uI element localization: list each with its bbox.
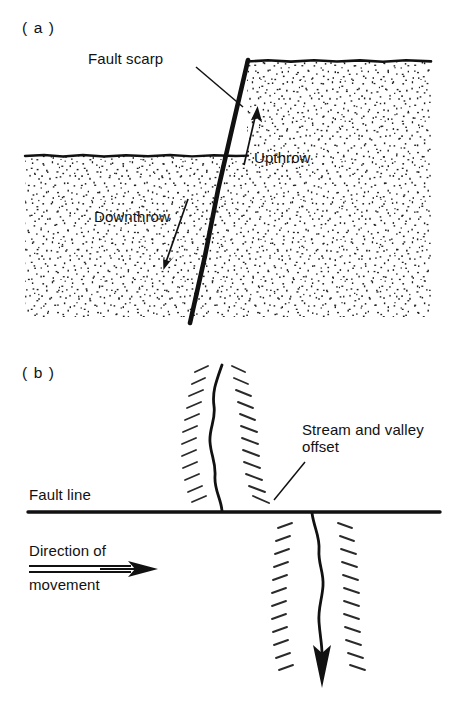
diagram-canvas: ( a ) Fault s — [0, 0, 455, 701]
direction-label-line1: Direction of — [29, 542, 107, 559]
fault-scarp-label: Fault scarp — [88, 50, 163, 67]
stream-lower — [312, 513, 323, 654]
ground-surface-upthrown — [247, 60, 431, 62]
stream-offset-label-line1: Stream and valley — [302, 421, 424, 438]
stream-upper — [210, 365, 222, 511]
ground-surface-downthrown — [25, 155, 248, 157]
valley-hachures-lower-right — [338, 523, 365, 670]
panel-b-group: ( b ) Fault line — [22, 364, 440, 688]
downthrow-label: Downthrow — [94, 208, 170, 225]
direction-of-movement-arrow — [29, 561, 158, 577]
fault-diagram-figure: ( a ) Fault s — [0, 0, 455, 701]
panel-a-group: ( a ) Fault s — [20, 19, 440, 325]
direction-label-line2: movement — [29, 576, 101, 593]
fault-line-label: Fault line — [29, 486, 91, 503]
valley-hachures-upper-left — [182, 366, 208, 502]
panel-b-label: ( b ) — [22, 364, 55, 381]
stream-offset-leader-line — [274, 462, 305, 500]
valley-hachures-upper-right — [232, 366, 269, 503]
stream-offset-label-line2: offset — [302, 438, 340, 455]
upthrow-label: Upthrow — [254, 149, 311, 166]
panel-a-label: ( a ) — [22, 19, 55, 36]
valley-hachures-lower-left — [272, 523, 293, 670]
fault-scarp-leader-line — [196, 67, 243, 107]
